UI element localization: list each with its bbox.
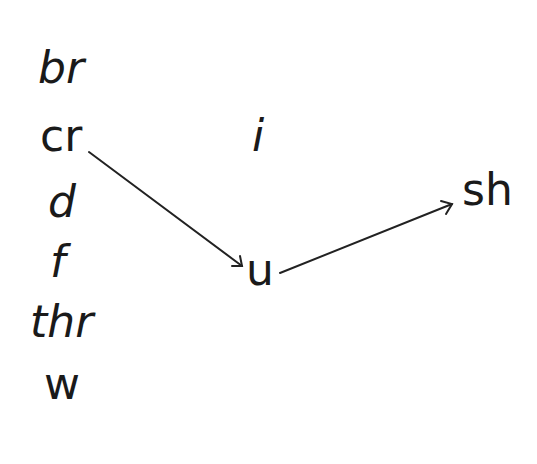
arrow-cr-to-u bbox=[89, 152, 242, 266]
connector-arrows bbox=[0, 0, 537, 464]
arrow-u-to-sh bbox=[280, 204, 452, 273]
